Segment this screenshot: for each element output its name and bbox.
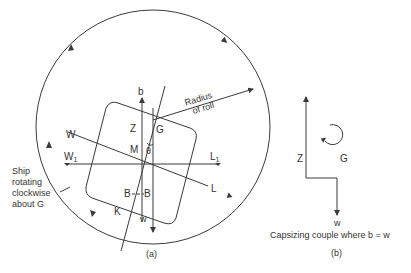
label-theta: θ <box>146 146 151 156</box>
stability-diagram: b Z G M θ W W1 L1 L B B K w Radius of ro… <box>0 0 411 273</box>
label-L1: L1 <box>210 151 220 163</box>
waterline-WL <box>68 132 208 186</box>
rotation-arrowhead-icon <box>321 136 328 143</box>
panel-a: b Z G M θ W W1 L1 L B B K w Radius of ro… <box>12 10 270 259</box>
label-W1: W1 <box>64 151 77 163</box>
label-M: M <box>130 144 138 155</box>
circle-arrow-icon <box>225 192 233 200</box>
label-Z-b: Z <box>297 153 303 164</box>
annotation-line-1: Ship <box>12 166 30 176</box>
annotation-leader <box>60 187 70 192</box>
label-w: w <box>139 214 147 224</box>
label-L: L <box>211 183 217 194</box>
circle-arrow-icon <box>46 141 52 148</box>
centreline <box>121 86 165 251</box>
panel-b: Z G w Capsizing couple where b = w (b) <box>270 97 390 258</box>
capsizing-couple-label: Capsizing couple where b = w <box>270 230 390 240</box>
radius-label: Radius of roll <box>184 90 217 117</box>
label-w-b: w <box>333 218 341 228</box>
label-B-right: B <box>144 188 151 199</box>
ship-hull <box>86 102 197 224</box>
label-G-b: G <box>340 153 348 164</box>
label-K: K <box>114 206 121 217</box>
circle-arrow-icon <box>90 210 96 217</box>
circle-arrow-icon <box>221 37 229 45</box>
label-W: W <box>66 129 76 140</box>
rotation-arrow-icon <box>325 125 343 145</box>
label-B-left: B <box>124 188 131 199</box>
label-G: G <box>156 124 164 135</box>
annotation-line-2: rotating <box>12 177 42 187</box>
caption-a: (a) <box>146 249 157 259</box>
label-b: b <box>138 86 144 97</box>
label-Z: Z <box>130 123 136 134</box>
caption-b: (b) <box>331 248 342 258</box>
annotation-line-3: clockwise <box>12 188 51 198</box>
annotation-line-4: about G <box>12 199 44 209</box>
